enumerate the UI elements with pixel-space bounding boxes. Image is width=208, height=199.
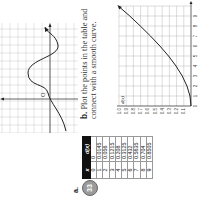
svg-text:1: 1 [193, 94, 198, 97]
table-row: 90.8505 [146, 137, 152, 179]
part-b-text: Plot the points in the table and connect… [80, 9, 98, 119]
previous-problem-graph: xO [0, 23, 78, 133]
svg-text:6: 6 [193, 44, 198, 47]
part-a-label: a. [72, 187, 79, 193]
svg-text:0.7: 0.7 [138, 108, 143, 115]
data-table: x d(x) 0010.014520.05630.121540.20850.31… [82, 136, 153, 179]
svg-text:4: 4 [193, 64, 198, 67]
s-curve [28, 29, 66, 131]
problem-number-badge: 33 [82, 180, 98, 196]
svg-text:5: 5 [193, 54, 198, 57]
part-b-label: b. [79, 112, 89, 119]
svg-text:d(x): d(x) [120, 96, 125, 104]
svg-text:8: 8 [193, 24, 198, 27]
cell-dx: 0.8505 [146, 137, 152, 162]
dx-chart: 0.10.20.30.40.50.60.70.80.91.00123456789… [113, 0, 208, 120]
svg-text:0.4: 0.4 [160, 108, 165, 115]
svg-text:0: 0 [193, 104, 198, 107]
cell-x: 9 [146, 162, 152, 179]
part-b-instructions: b. Plot the points in the table and conn… [80, 1, 98, 119]
svg-text:0.3: 0.3 [167, 108, 172, 115]
svg-text:O: O [40, 92, 46, 97]
svg-text:3: 3 [193, 74, 198, 77]
svg-text:0.5: 0.5 [153, 108, 158, 115]
svg-text:x: x [189, 0, 194, 1]
svg-text:0.8: 0.8 [131, 108, 136, 115]
svg-text:9: 9 [193, 14, 198, 17]
svg-text:0.1: 0.1 [181, 108, 186, 115]
svg-text:0.9: 0.9 [124, 108, 129, 115]
svg-text:0.6: 0.6 [145, 108, 150, 115]
svg-text:2: 2 [193, 84, 198, 87]
textbook-page: 33 a. x d(x) 0010.014520.05630.121540.20… [0, 0, 208, 199]
svg-text:1.0: 1.0 [117, 108, 122, 115]
svg-text:7: 7 [193, 34, 198, 37]
svg-text:0.2: 0.2 [174, 108, 179, 115]
